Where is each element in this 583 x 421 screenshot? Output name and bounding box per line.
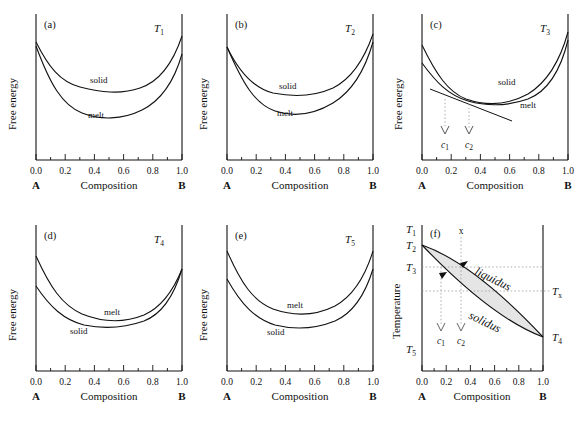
x-axis-title: Composition	[81, 179, 138, 191]
curve-solid	[227, 269, 373, 328]
composition-marker-c2	[465, 104, 473, 134]
x-axis-tick-labels: 0.0 0.2 0.4 0.6 0.8 1.0	[416, 166, 574, 176]
x-axis-ticks	[422, 154, 568, 160]
panel-label: (e)	[235, 230, 247, 242]
curve-label-melt: melt	[287, 300, 303, 310]
x-axis-tick-labels: 0.0 0.2 0.4 0.6 0.8 1.0	[416, 377, 549, 387]
xtick-3: 0.6	[309, 377, 321, 387]
panel-b: (b) T2 solid melt Free energy 0.0 0.2 0.…	[191, 0, 385, 210]
figure-free-energy-phase-diagram: (a) T1 solid melt Free energy 0.0 0.2 0.…	[0, 0, 583, 421]
solidus-marker	[439, 272, 447, 279]
x-axis-title: Composition	[272, 390, 329, 402]
endpoint-label-a: A	[32, 390, 40, 402]
panel-c: (c) T3 solid melt c1 c2 Free energy 0.0 …	[386, 0, 580, 210]
panel-label: (c)	[430, 19, 442, 31]
y-axis-title: Free energy	[197, 77, 209, 130]
panel-label: (b)	[235, 19, 248, 31]
x-axis-tick-labels: 0.0 0.2 0.4 0.6 0.8 1.0	[30, 166, 188, 176]
curve-solid	[36, 269, 182, 327]
xtick-2: 0.4	[279, 377, 291, 387]
temperature-label: T4	[154, 233, 164, 248]
xtick-3: 0.6	[118, 166, 130, 176]
y-axis-title: Free energy	[392, 77, 404, 130]
endpoint-label-b: B	[369, 390, 377, 402]
endpoint-label-a: A	[223, 179, 231, 191]
curve-label-melt: melt	[104, 307, 120, 317]
curve-melt	[36, 46, 182, 118]
x-axis-title: Composition	[454, 390, 511, 402]
endpoint-label-a: A	[418, 390, 426, 402]
temperature-label: T3	[540, 22, 550, 37]
panel-label: (f)	[430, 228, 441, 240]
xtick-4: 0.8	[147, 377, 159, 387]
endpoint-label-b: B	[178, 390, 186, 402]
xtick-0: 0.0	[221, 377, 233, 387]
y-axis-title: Free energy	[197, 288, 209, 341]
curve-melt	[227, 42, 373, 114]
x-axis-title: Composition	[272, 179, 329, 191]
curve-label-solid: solid	[90, 75, 108, 85]
label-t4: T4	[552, 331, 562, 346]
label-tx: Tx	[552, 285, 562, 300]
endpoint-label-a: A	[223, 390, 231, 402]
xtick-5: 1.0	[367, 166, 379, 176]
composition-marker-c1	[441, 99, 449, 134]
xtick-5: 1.0	[537, 377, 549, 387]
x-axis-tick-labels: 0.0 0.2 0.4 0.6 0.8 1.0	[221, 166, 379, 176]
label-c1: c1	[437, 336, 445, 348]
x-axis-tick-labels: 0.0 0.2 0.4 0.6 0.8 1.0	[30, 377, 188, 387]
label-x-composition: x	[459, 226, 464, 236]
x-axis-ticks	[422, 365, 543, 371]
xtick-4: 0.8	[147, 166, 159, 176]
label-t1: T1	[406, 223, 416, 238]
endpoint-label-b: B	[369, 179, 377, 191]
panel-label: (a)	[44, 19, 56, 31]
xtick-4: 0.8	[513, 377, 525, 387]
endpoint-label-b: B	[539, 390, 547, 402]
temperature-label: T2	[345, 22, 355, 37]
xtick-5: 1.0	[176, 377, 188, 387]
xtick-3: 0.6	[489, 377, 501, 387]
curve-label-solid: solid	[267, 327, 285, 337]
label-c2: c2	[457, 336, 465, 348]
y-axis-title: Temperature	[390, 283, 402, 339]
curve-solid	[36, 36, 182, 92]
xtick-0: 0.0	[416, 377, 428, 387]
xtick-2: 0.4	[464, 377, 476, 387]
endpoint-label-a: A	[418, 179, 426, 191]
xtick-3: 0.6	[309, 166, 321, 176]
xtick-1: 0.2	[59, 377, 71, 387]
curve-label-melt: melt	[277, 108, 293, 118]
xtick-2: 0.4	[88, 166, 100, 176]
y-axis-title: Free energy	[6, 77, 18, 130]
xtick-4: 0.8	[338, 377, 350, 387]
curve-label-melt: melt	[88, 110, 104, 120]
xtick-4: 0.8	[338, 166, 350, 176]
label-c1: c1	[441, 140, 449, 152]
curve-solid	[422, 32, 568, 103]
endpoint-label-a: A	[32, 179, 40, 191]
xtick-0: 0.0	[221, 166, 233, 176]
x-axis-ticks	[227, 365, 373, 371]
panel-label: (d)	[44, 230, 57, 242]
xtick-2: 0.4	[88, 377, 100, 387]
temperature-label: T1	[154, 22, 164, 37]
xtick-1: 0.2	[59, 166, 71, 176]
y-axis-title: Free energy	[6, 288, 18, 341]
xtick-0: 0.0	[30, 166, 42, 176]
label-c2: c2	[465, 140, 473, 152]
label-t5: T5	[406, 343, 416, 358]
x-axis-ticks	[36, 365, 182, 371]
xtick-2: 0.4	[279, 166, 291, 176]
curve-label-solid: solid	[279, 81, 297, 91]
xtick-1: 0.2	[250, 166, 262, 176]
panel-f: (f) T1 T2 T3 T5 Tx T4 x liquidus solidus…	[386, 211, 580, 421]
xtick-1: 0.2	[445, 166, 457, 176]
xtick-5: 1.0	[562, 166, 574, 176]
curve-label-solid: solid	[70, 326, 88, 336]
curve-label-melt: melt	[520, 100, 536, 110]
temperature-label: T5	[345, 233, 355, 248]
xtick-5: 1.0	[176, 166, 188, 176]
xtick-5: 1.0	[367, 377, 379, 387]
panel-f-plot-area	[422, 225, 551, 371]
